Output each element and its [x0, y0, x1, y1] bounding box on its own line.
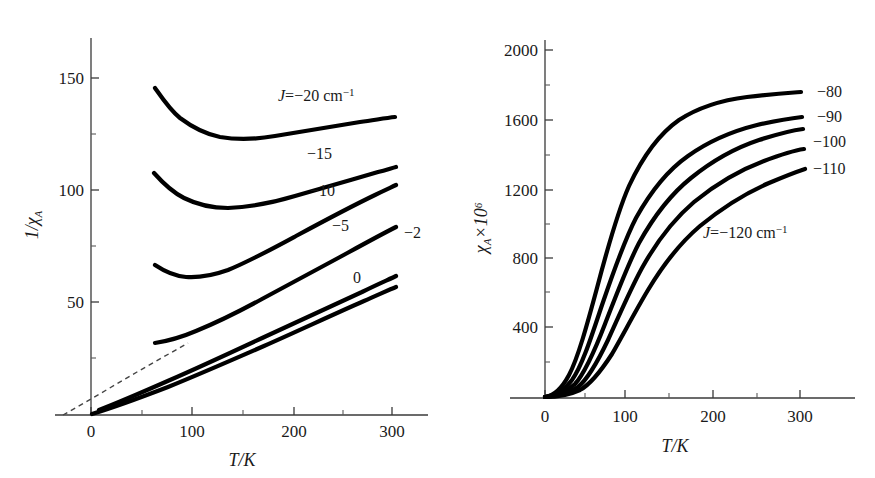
left-label-minus-5: −5	[332, 217, 349, 234]
left-curve-j-minus-20	[155, 88, 395, 139]
left-label-minus-2: −2	[404, 224, 421, 241]
right-ytick-label-2000: 2000	[504, 41, 538, 60]
left-ytick-label-100: 100	[59, 181, 85, 200]
right-xtick-label-100: 100	[612, 407, 638, 426]
figure-container: 150 100 50 0 100 200 300 T/K 1/χA	[0, 0, 875, 478]
right-x-axis-title: T/K	[661, 436, 689, 456]
right-ytick-label-800: 800	[513, 249, 539, 268]
right-label-minus-100: −100	[813, 133, 846, 150]
right-xtick-label-300: 300	[787, 407, 813, 426]
left-label-zero: 0	[353, 269, 361, 286]
left-x-axis-title: T/K	[228, 450, 256, 470]
left-label-minus-10: −10	[310, 182, 335, 199]
right-label-minus-90: −90	[817, 108, 842, 125]
right-xtick-label-0: 0	[541, 407, 550, 426]
left-xtick-label-0: 0	[87, 422, 96, 441]
chart-panel-right: 2000 1600 1200 800 400 0 100 200 300 T/K…	[435, 0, 875, 478]
right-xtick-label-200: 200	[700, 407, 726, 426]
left-y-axis-title-sub: A	[32, 210, 44, 218]
right-y-axis-title-mult: ×10	[471, 208, 491, 238]
left-curve-j-minus-2	[99, 276, 396, 410]
left-xtick-label-100: 100	[179, 422, 205, 441]
left-label-minus-15: −15	[307, 145, 332, 162]
left-label-j-minus-20: J=−20 cm−1	[278, 86, 354, 104]
svg-text:1/χA: 1/χA	[22, 210, 44, 239]
right-y-axis-title-exp: 6	[472, 202, 484, 208]
right-chart-svg: 2000 1600 1200 800 400 0 100 200 300 T/K…	[435, 0, 875, 478]
right-label-minus-80: −80	[817, 83, 842, 100]
left-ytick-label-150: 150	[59, 69, 85, 88]
left-xtick-label-300: 300	[379, 422, 405, 441]
left-chart-svg: 150 100 50 0 100 200 300 T/K 1/χA	[0, 0, 440, 478]
left-xtick-label-200: 200	[281, 422, 307, 441]
left-curve-j-minus-10	[155, 185, 396, 277]
right-ytick-label-1600: 1600	[504, 111, 538, 130]
right-label-j-minus-120: J=−120 cm−1	[703, 223, 787, 241]
right-ytick-label-400: 400	[513, 318, 539, 337]
right-curve-j-minus-120	[545, 169, 805, 397]
svg-text:χA×106: χA×106	[471, 202, 493, 255]
right-y-axis-title: χA×106	[471, 202, 493, 255]
right-ytick-label-1200: 1200	[504, 181, 538, 200]
left-ytick-label-50: 50	[67, 293, 84, 312]
chart-panel-left: 150 100 50 0 100 200 300 T/K 1/χA	[0, 0, 440, 478]
right-label-minus-110: −110	[813, 160, 845, 177]
left-y-axis-title: 1/χA	[22, 210, 44, 239]
